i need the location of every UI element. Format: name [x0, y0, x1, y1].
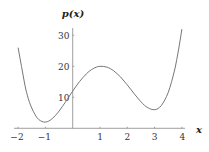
y-tick-label: 30 — [58, 31, 70, 41]
x-tick-label: 3 — [152, 132, 158, 142]
x-tick-label: −2 — [10, 132, 23, 142]
y-axis-label: p(x) — [62, 8, 85, 19]
x-tick-label: 1 — [97, 132, 103, 142]
x-tick-label: −1 — [38, 132, 51, 142]
x-axis-label: x — [195, 124, 203, 135]
curve-p-of-x — [18, 29, 182, 122]
x-tick-label: 4 — [180, 132, 186, 142]
chart: −2 −1 1 2 3 4 10 20 30 p(x) x — [0, 0, 209, 152]
y-tick-label: 20 — [58, 62, 70, 72]
x-tick-label: 2 — [124, 132, 130, 142]
